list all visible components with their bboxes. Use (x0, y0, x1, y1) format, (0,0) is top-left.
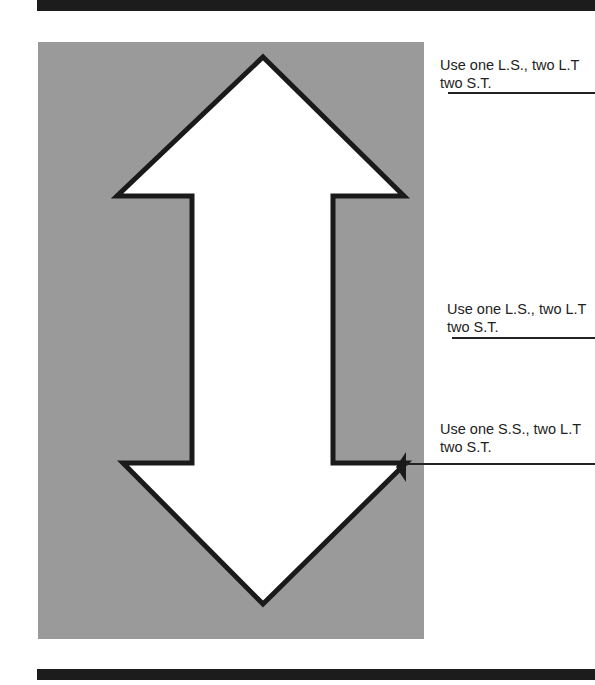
bottom-rule (37, 669, 595, 680)
annotation-3-line2: two S.T. (440, 438, 581, 456)
annotation-1-line2: two S.T. (440, 74, 579, 92)
pointer-arrowhead-icon (396, 452, 406, 482)
annotation-1-line1: Use one L.S., two L.T (440, 56, 579, 74)
annotation-2-line2: two S.T. (447, 318, 586, 336)
double-arrow-icon (0, 0, 595, 685)
annotation-3-pointer-line (406, 463, 595, 465)
annotation-2-rule (452, 337, 595, 339)
annotation-2-line1: Use one L.S., two L.T (447, 300, 586, 318)
annotation-1-rule (448, 92, 595, 94)
annotation-3: Use one S.S., two L.T two S.T. (440, 420, 581, 456)
annotation-1: Use one L.S., two L.T two S.T. (440, 56, 579, 92)
annotation-3-line1: Use one S.S., two L.T (440, 420, 581, 438)
annotation-2: Use one L.S., two L.T two S.T. (447, 300, 586, 336)
